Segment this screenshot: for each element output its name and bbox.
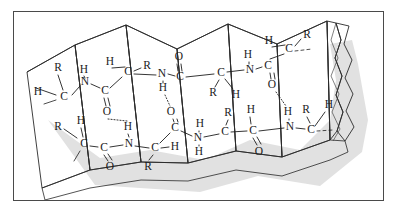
figure-root: H R C H N C O H C R N O C H C R H N H C xyxy=(0,0,408,216)
figure-frame xyxy=(13,11,384,201)
